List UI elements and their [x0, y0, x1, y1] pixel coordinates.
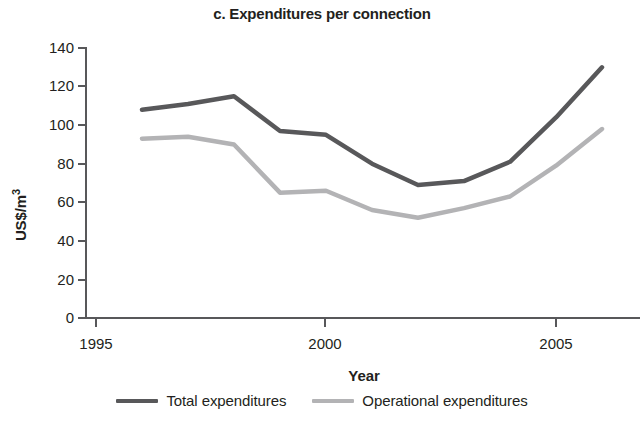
y-axis-label: US$/m3 — [10, 189, 29, 241]
y-tick-label: 40 — [57, 232, 74, 249]
legend-item-label: Total expenditures — [166, 392, 286, 409]
x-axis — [86, 318, 640, 327]
y-tick-label: 20 — [57, 271, 74, 288]
legend-color-swatch — [116, 399, 158, 403]
legend: Total expenditures Operational expenditu… — [0, 392, 644, 409]
y-tick-labels: 140 120 100 80 60 40 20 0 — [49, 39, 74, 326]
y-axis-label-text: US$/m — [12, 195, 29, 241]
y-tick-label: 140 — [49, 39, 74, 56]
x-axis-label: Year — [348, 367, 380, 384]
y-tick-label: 0 — [66, 309, 74, 326]
legend-item-operational-expenditures: Operational expenditures — [312, 392, 527, 409]
series-line-total-expenditures — [142, 67, 602, 185]
legend-color-swatch — [312, 399, 354, 403]
y-axis-label-superscript: 3 — [10, 189, 22, 195]
x-tick-labels: 1995 2000 2005 — [79, 335, 572, 352]
y-tick-label: 100 — [49, 116, 74, 133]
x-tick-label: 2005 — [539, 335, 572, 352]
y-axis — [78, 47, 86, 319]
y-tick-label: 60 — [57, 193, 74, 210]
x-tick-label: 1995 — [79, 335, 112, 352]
x-tick-label: 2000 — [308, 335, 341, 352]
legend-item-total-expenditures: Total expenditures — [116, 392, 286, 409]
y-tick-label: 120 — [49, 77, 74, 94]
y-tick-label: 80 — [57, 155, 74, 172]
legend-item-label: Operational expenditures — [362, 392, 527, 409]
chart-figure: c. Expenditures per connection US$/m3 14… — [0, 0, 644, 425]
line-chart-plot: US$/m3 140 120 100 80 60 40 20 0 — [0, 0, 644, 392]
svg-text:US$/m3: US$/m3 — [10, 189, 29, 241]
